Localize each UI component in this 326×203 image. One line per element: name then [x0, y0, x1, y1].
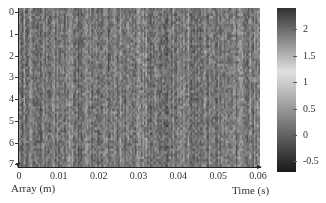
y-tick-label: 5 [6, 116, 14, 126]
colorbar-tick-label: 1.5 [303, 51, 316, 61]
heatmap-canvas [19, 8, 260, 167]
colorbar-tick-label: 0 [303, 130, 308, 140]
y-tick-mark [15, 164, 19, 165]
y-tick-mark [15, 77, 19, 78]
x-tick-label: 0.04 [170, 171, 188, 181]
colorbar-tick-mark [293, 56, 297, 57]
y-tick-label: 3 [6, 72, 14, 82]
heatmap-plot-area [19, 8, 260, 167]
x-axis-arrow-icon [257, 165, 262, 169]
colorbar-tick-mark [293, 109, 297, 110]
x-tick-label: 0.01 [50, 171, 68, 181]
y-tick-label: 6 [6, 138, 14, 148]
colorbar-tick-label: 1 [303, 77, 308, 87]
y-tick-mark [15, 34, 19, 35]
y-tick-mark [15, 143, 19, 144]
y-tick-label: 7 [6, 159, 14, 169]
y-tick-label: 2 [6, 51, 14, 61]
colorbar-tick-label: 2 [303, 24, 308, 34]
y-tick-mark [15, 99, 19, 100]
colorbar-tick-mark [293, 161, 297, 162]
y-tick-label: 1 [6, 29, 14, 39]
y-tick-label: 0 [6, 7, 14, 17]
colorbar-tick-label: 0.5 [303, 104, 316, 114]
x-tick-label: 0.06 [249, 171, 267, 181]
x-axis-label: Time (s) [232, 184, 269, 196]
colorbar-tick-mark [293, 135, 297, 136]
y-tick-mark [15, 12, 19, 13]
x-tick-label: 0.03 [130, 171, 148, 181]
colorbar-tick-mark [293, 29, 297, 30]
x-tick-label: 0.02 [90, 171, 108, 181]
x-tick-label: 0 [17, 171, 22, 181]
y-tick-mark [15, 56, 19, 57]
colorbar [277, 8, 296, 172]
colorbar-tick-label: -0.5 [303, 156, 319, 166]
x-axis-line [18, 167, 261, 168]
y-tick-label: 4 [6, 94, 14, 104]
x-tick-label: 0.05 [209, 171, 227, 181]
y-tick-mark [15, 121, 19, 122]
colorbar-tick-mark [293, 82, 297, 83]
y-axis-line [18, 8, 19, 168]
y-axis-label: Array (m) [11, 182, 55, 194]
